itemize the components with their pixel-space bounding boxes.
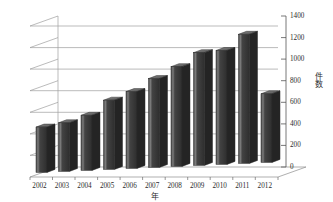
y-tick-label-0: 0 bbox=[290, 163, 294, 171]
y-axis-title: 件数 bbox=[313, 72, 321, 88]
bar-2011 bbox=[239, 31, 258, 163]
bar-2008 bbox=[171, 64, 190, 167]
bar-2006 bbox=[126, 89, 145, 169]
y-axis bbox=[281, 16, 286, 167]
y-tick-label-600: 600 bbox=[290, 98, 301, 106]
x-tick-label-2005: 2005 bbox=[95, 182, 120, 190]
x-tick-label-2003: 2003 bbox=[50, 182, 75, 190]
y-tick-label-200: 200 bbox=[290, 141, 301, 149]
bar-2004 bbox=[81, 112, 100, 170]
bar-2005 bbox=[104, 97, 123, 169]
x-tick-label-2007: 2007 bbox=[140, 182, 165, 190]
x-tick-label-2004: 2004 bbox=[72, 182, 97, 190]
x-axis-title: 年 bbox=[125, 190, 185, 201]
x-tick-label-2006: 2006 bbox=[117, 182, 142, 190]
x-tick-label-2009: 2009 bbox=[185, 182, 210, 190]
x-axis-ticks bbox=[30, 177, 278, 180]
y-tick-label-800: 800 bbox=[290, 77, 301, 85]
x-tick-label-2012: 2012 bbox=[252, 182, 277, 190]
bar-chart: 1400 1200 1000 800 600 400 200 0 2002 20… bbox=[0, 0, 333, 202]
bar-2003 bbox=[59, 120, 78, 172]
y-tick-label-1000: 1000 bbox=[290, 55, 304, 63]
bar-2007 bbox=[149, 76, 168, 168]
plot-area: 1400 1200 1000 800 600 400 200 0 2002 20… bbox=[0, 0, 333, 202]
chart-canvas bbox=[0, 0, 333, 202]
bar-2002 bbox=[36, 124, 55, 172]
bar-2012 bbox=[261, 91, 280, 163]
x-tick-label-2011: 2011 bbox=[230, 182, 255, 190]
y-tick-label-400: 400 bbox=[290, 120, 301, 128]
x-tick-label-2008: 2008 bbox=[162, 182, 187, 190]
bar-2009 bbox=[194, 50, 213, 166]
x-tick-label-2002: 2002 bbox=[27, 182, 52, 190]
y-tick-label-1400: 1400 bbox=[290, 12, 304, 20]
x-tick-label-2010: 2010 bbox=[207, 182, 232, 190]
bars bbox=[36, 31, 280, 172]
y-tick-label-1200: 1200 bbox=[290, 34, 304, 42]
bar-2010 bbox=[216, 48, 235, 165]
